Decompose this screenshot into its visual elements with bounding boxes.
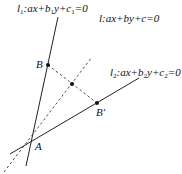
- line-l1: [26, 17, 58, 166]
- l1-eq-part1: :ax+b: [24, 2, 51, 14]
- line-l2: [10, 78, 139, 154]
- l2-eq-part1: :ax+b: [117, 66, 144, 78]
- point-midpoint: [70, 82, 74, 86]
- l1-eq-part3: =0: [75, 2, 88, 14]
- point-B-prime: [95, 101, 99, 105]
- point-B: [46, 63, 50, 67]
- l2-eq-part3: =0: [168, 66, 181, 78]
- l2-eq-part2: y+c: [147, 66, 164, 78]
- label-l-equation: l:ax+by+c=0: [99, 13, 159, 24]
- label-l1-equation: l1:ax+b1y+c1=0: [17, 3, 88, 16]
- line-l-dashed: [4, 57, 92, 172]
- label-l2-equation: l2:ax+b2y+c2=0: [110, 67, 181, 80]
- label-point-B-prime: B′: [96, 107, 105, 118]
- l1-eq-part2: y+c: [54, 2, 71, 14]
- label-point-B: B: [36, 59, 43, 70]
- diagram-svg: [0, 0, 182, 174]
- label-point-A: A: [35, 141, 42, 152]
- diagram-canvas: l1:ax+b1y+c1=0 l:ax+by+c=0 l2:ax+b2y+c2=…: [0, 0, 182, 174]
